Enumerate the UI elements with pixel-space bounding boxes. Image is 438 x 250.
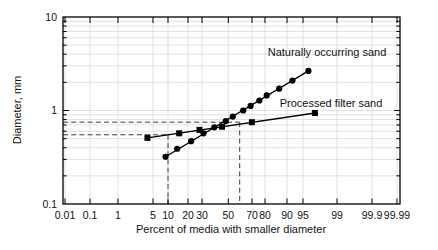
x-tick-label: 80 — [259, 209, 271, 221]
data-point-square — [219, 124, 225, 130]
effective-size-guides — [63, 122, 240, 204]
x-tick-labels: 0.010.11510203050708090959999.999.99 — [55, 209, 411, 221]
y-tick-labels: 1010.1 — [42, 11, 57, 210]
data-point-square — [197, 127, 203, 133]
data-point-circle — [230, 114, 236, 120]
x-tick-label: 99 — [331, 209, 343, 221]
x-tick-label: 95 — [297, 209, 309, 221]
data-point-circle — [248, 103, 254, 109]
grain-size-distribution-figure: 0.010.11510203050708090959999.999.991010… — [0, 0, 438, 250]
data-point-circle — [188, 138, 194, 144]
x-tick-label: 99.99 — [384, 209, 410, 221]
series-label-processed-filter-sand: Processed filter sand — [280, 97, 383, 109]
x-tick-label: 50 — [222, 209, 234, 221]
x-tick-label: 10 — [162, 209, 174, 221]
x-tick-label: 70 — [246, 209, 258, 221]
data-point-square — [176, 130, 182, 136]
data-point-square — [312, 110, 318, 116]
y-tick-label: 10 — [45, 11, 57, 23]
y-tick-label: 0.1 — [42, 198, 57, 210]
data-point-circle — [256, 97, 262, 103]
data-point-circle — [162, 154, 168, 160]
x-tick-label: 0.1 — [83, 209, 98, 221]
series-label-naturally-occurring-sand: Naturally occurring sand — [268, 46, 387, 58]
data-point-square — [144, 135, 150, 141]
data-point-circle — [174, 146, 180, 152]
data-point-circle — [305, 68, 311, 74]
data-point-circle — [289, 77, 295, 83]
x-tick-label: 90 — [281, 209, 293, 221]
data-point-circle — [240, 107, 246, 113]
data-point-circle — [223, 118, 229, 124]
x-axis-label: Percent of media with smaller diameter — [136, 223, 326, 235]
x-tick-label: 0.01 — [55, 209, 76, 221]
chart-canvas: 0.010.11510203050708090959999.999.991010… — [0, 0, 438, 250]
x-tick-label: 5 — [150, 209, 156, 221]
series-naturally-occurring-sand — [162, 68, 311, 160]
y-tick-label: 1 — [51, 104, 57, 116]
x-tick-label: 20 — [182, 209, 194, 221]
data-point-circle — [264, 92, 270, 98]
x-tick-label: 99.9 — [362, 209, 383, 221]
x-tick-label: 1 — [115, 209, 121, 221]
data-point-square — [249, 119, 255, 125]
x-tick-label: 30 — [196, 209, 208, 221]
data-point-circle — [276, 86, 282, 92]
y-axis-label: Diameter, mm — [11, 76, 23, 144]
